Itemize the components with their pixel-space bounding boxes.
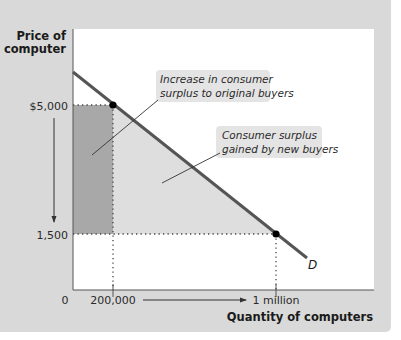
page-margin (391, 0, 401, 340)
callout-original-buyers-line2: surplus to original buyers (160, 87, 294, 99)
consumer-surplus-chart: D Increase in consumer surplus to origin… (0, 0, 401, 340)
callout-new-buyers-line2: gained by new buyers (222, 143, 339, 155)
callout-new-buyers-line1: Consumer surplus (222, 129, 318, 141)
point-high-price (109, 101, 116, 108)
demand-curve-label: D (308, 258, 317, 272)
original-buyers-surplus-region (73, 105, 113, 234)
x-tick-label-low: 200,000 (90, 294, 136, 307)
x-axis-title: Quantity of computers (227, 310, 373, 324)
callout-original-buyers-line1: Increase in consumer (160, 73, 274, 85)
y-axis-title-line1: Price of (16, 29, 67, 43)
y-tick-label-high: $5,000 (30, 100, 69, 113)
y-axis-title-line2: computer (4, 42, 66, 56)
y-tick-label-low: 1,500 (37, 229, 69, 242)
point-low-price (272, 230, 279, 237)
x-tick-label-zero: 0 (62, 294, 69, 307)
x-tick-label-high: 1 million (252, 294, 299, 307)
